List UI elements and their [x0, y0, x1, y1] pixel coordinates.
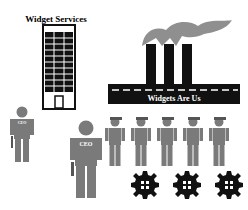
office-building-icon: [42, 24, 76, 110]
widget-services-label: Widget Services: [24, 14, 88, 24]
worker-icon: [182, 116, 204, 168]
gear-icon: [130, 170, 160, 200]
large-executive-figure: [68, 120, 104, 200]
factory-icon: [104, 8, 244, 104]
small-executive-label: CEO: [14, 120, 30, 125]
small-executive-figure: [8, 106, 36, 164]
worker-icon: [156, 116, 178, 168]
gear-icon: [172, 170, 202, 200]
workers-group: [104, 116, 230, 168]
worker-icon: [130, 116, 152, 168]
worker-icon: [104, 116, 126, 168]
large-executive-label: CEO: [76, 141, 96, 147]
worker-icon: [208, 116, 230, 168]
gears-group: [130, 170, 244, 200]
gear-icon: [214, 170, 244, 200]
factory-label: Widgets Are Us: [108, 94, 240, 103]
